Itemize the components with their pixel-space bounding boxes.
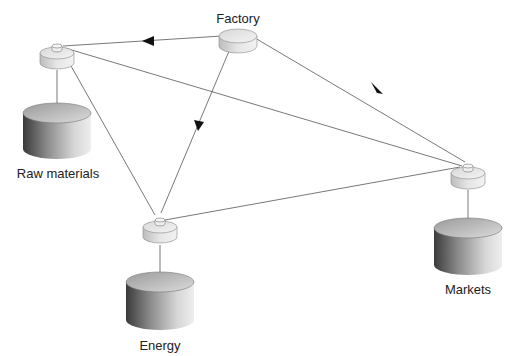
edges [57, 36, 468, 286]
raw-materials-hub[interactable] [40, 44, 74, 69]
arrow-factory-energy [194, 120, 204, 131]
edge-energy-markets [165, 167, 460, 220]
edge-factory-markets [255, 38, 465, 162]
arrowheads [52, 36, 473, 286]
edge-raw-markets [65, 48, 462, 166]
arrow-factory-markets [366, 82, 383, 94]
markets-store[interactable] [434, 218, 502, 275]
edge-factory-energy [161, 44, 232, 213]
energy-label: Energy [139, 338, 181, 353]
markets-label: Markets [445, 282, 492, 297]
diagram-canvas: Factory Raw materials Energy Markets [0, 0, 515, 356]
factory-node[interactable] [219, 29, 257, 53]
energy-store[interactable] [126, 272, 194, 330]
raw-materials-store[interactable] [23, 103, 91, 159]
raw-materials-label: Raw materials [17, 166, 100, 181]
factory-label: Factory [216, 11, 260, 26]
arrow-factory-raw [142, 36, 154, 46]
energy-hub[interactable] [143, 218, 177, 243]
